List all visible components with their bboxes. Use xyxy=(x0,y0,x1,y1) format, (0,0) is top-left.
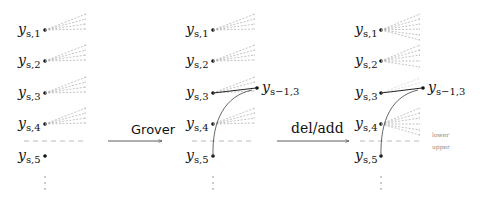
node-label: ys,5 xyxy=(17,147,41,165)
fan-lines xyxy=(45,108,86,124)
panel-after-grover: ys,1 ys,2 ys,3 xyxy=(185,14,299,190)
node-dot xyxy=(43,154,47,158)
node-row: ys,3 xyxy=(185,77,256,102)
panel-after-del-add: ys,1 ys,2 ys,3 xyxy=(354,14,465,190)
node-row: ys,3 xyxy=(354,78,422,102)
node-label: ys,2 xyxy=(354,52,378,70)
node-label: ys,4 xyxy=(17,115,41,133)
node-label: ys,1 xyxy=(17,21,41,39)
node-row: ys,2 xyxy=(354,45,420,70)
node-label: ys,1 xyxy=(354,21,378,39)
node-label: ys,3 xyxy=(354,84,378,102)
fan-lines xyxy=(381,108,420,135)
node-dot xyxy=(255,86,259,90)
arrow-del-add: del/add xyxy=(277,120,349,141)
region-label-upper: upper xyxy=(432,143,450,151)
fan-lines xyxy=(213,14,255,30)
node-row: ys,2 xyxy=(185,45,255,70)
node-row: ys,2 xyxy=(17,45,86,70)
node-label: ys−1,3 xyxy=(261,79,299,97)
node-label: ys,5 xyxy=(185,147,209,165)
node-label: ys,2 xyxy=(185,52,209,70)
arrow-label: Grover xyxy=(131,122,176,137)
node-row: ys,1 xyxy=(17,14,86,39)
fan-lines xyxy=(45,14,86,30)
node-row: ys,5 xyxy=(185,147,215,165)
node-label: ys,3 xyxy=(17,84,41,102)
node-dot xyxy=(421,86,425,90)
node-row: ys,3 xyxy=(17,77,86,102)
node-row: ys,1 xyxy=(354,14,420,40)
node-label: ys,5 xyxy=(354,147,378,165)
arrow-grover: Grover xyxy=(108,122,176,141)
node-label: ys,2 xyxy=(17,52,41,70)
node-label: ys,4 xyxy=(354,115,378,133)
curve-edge xyxy=(381,90,418,156)
node-label: ys−1,3 xyxy=(427,79,465,97)
panel-initial: ys,1 ys,2 ys,3 xyxy=(17,14,86,190)
fan-lines xyxy=(381,45,420,67)
extra-node: ys−1,3 xyxy=(255,79,299,97)
fan-lines xyxy=(45,45,86,61)
node-label: ys,3 xyxy=(185,84,209,102)
diagram-canvas: ys,1 ys,2 ys,3 xyxy=(0,0,480,200)
fan-lines xyxy=(213,45,255,61)
node-label: ys,4 xyxy=(185,115,209,133)
node-row: ys,5 xyxy=(354,147,383,165)
node-row: ys,1 xyxy=(185,14,255,39)
node-label: ys,1 xyxy=(185,21,209,39)
node-row: ys,4 xyxy=(354,108,420,135)
node-row: ys,4 xyxy=(185,108,255,133)
ellipsis-vertical-icon xyxy=(380,176,382,190)
fan-lines xyxy=(45,77,86,93)
arrow-label: del/add xyxy=(291,120,344,136)
fan-lines xyxy=(381,14,420,40)
node-row: ys,4 xyxy=(17,108,86,133)
region-label-lower: lower xyxy=(432,131,449,138)
extra-node: ys−1,3 xyxy=(421,79,465,97)
node-row: ys,5 xyxy=(17,147,47,165)
ellipsis-vertical-icon xyxy=(44,176,46,190)
ellipsis-vertical-icon xyxy=(212,176,214,190)
